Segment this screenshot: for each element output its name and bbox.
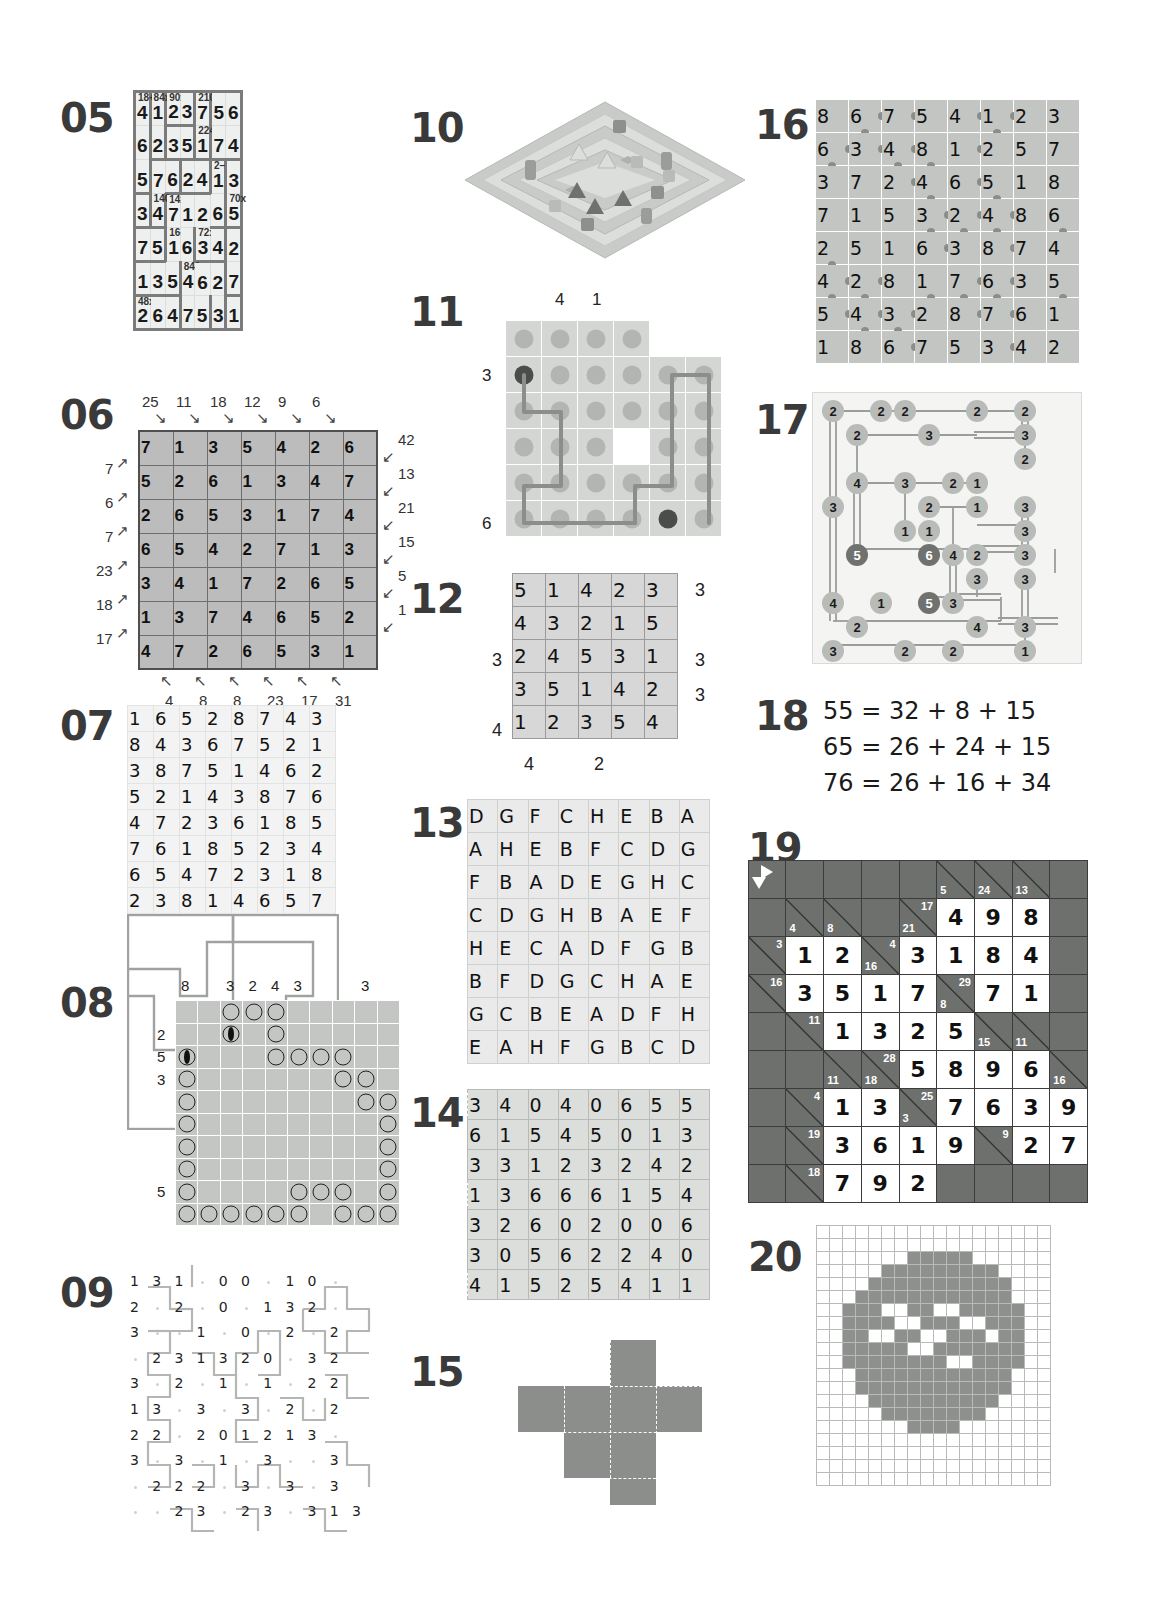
letter-row: EAHFGBCD: [468, 1031, 710, 1064]
nonogram-cell: [895, 1265, 908, 1278]
nonogram-cell: [856, 1434, 869, 1447]
tents-cell: [265, 1023, 287, 1046]
nonogram-cell: [1012, 1369, 1025, 1382]
tent-marker: [357, 1206, 374, 1223]
domino-cell: 5: [589, 1270, 619, 1300]
grid-dot: [223, 1486, 226, 1489]
kropki-row: 63481257: [816, 133, 1080, 166]
region-number: 3: [241, 1478, 250, 1494]
region-number: 3: [197, 1503, 206, 1519]
kakuro-answer-cell: 4: [937, 899, 975, 937]
puzzle-14-grid: 3404065561545013331232421366615432602006…: [467, 1089, 710, 1300]
path-node: [694, 365, 713, 384]
letter-cell: B: [679, 932, 709, 965]
tents-cell: [220, 1001, 242, 1024]
letter-cell: F: [498, 965, 528, 998]
region-number: 3: [130, 1375, 139, 1391]
calcudoku-cell: 5: [150, 228, 166, 262]
tent-marker: [380, 1138, 397, 1155]
nonogram-cell: [856, 1395, 869, 1408]
path-cell: [686, 393, 722, 429]
right-arrow: ↙: [382, 584, 395, 602]
nonogram-cell: [1038, 1395, 1051, 1408]
kropki-cell: 7: [981, 298, 1014, 331]
letter-cell: G: [619, 866, 649, 899]
domino-cell: 2: [498, 1210, 528, 1240]
calcudoku-cell: 4: [195, 160, 211, 194]
kropki-row: 18675342: [816, 331, 1080, 364]
nonogram-cell: [934, 1226, 947, 1239]
nonogram-cell: [843, 1447, 856, 1460]
region-number: 2: [174, 1375, 183, 1391]
nonogram-row: [817, 1473, 1051, 1486]
nonogram-cell: [882, 1382, 895, 1395]
nonogram-cell: [999, 1291, 1012, 1304]
kakuro-across-clue: 18: [808, 1166, 820, 1178]
tents-cell: [265, 1001, 287, 1024]
kakuro-down-clue: 13: [1016, 884, 1028, 896]
domino-cell: 4: [679, 1180, 709, 1210]
kakuro-block-cell: [1012, 1165, 1050, 1203]
sudoku-cell: 8: [154, 758, 180, 784]
kakuro-clue-cell: 19: [786, 1127, 824, 1165]
sudoku-cell: 2: [128, 888, 154, 914]
calcudoku-cell: 6: [180, 228, 195, 262]
nonogram-cell: [830, 1343, 843, 1356]
nonogram-cell: [817, 1460, 830, 1473]
nonogram-cell: [1025, 1330, 1038, 1343]
kakuro-row: 4133257639: [749, 1089, 1088, 1127]
skyscraper-cell: 2: [546, 706, 579, 739]
letter-cell: C: [619, 833, 649, 866]
region-number: 2: [152, 1350, 161, 1366]
domino-cell: 2: [558, 1150, 588, 1180]
region-number: 2: [152, 1427, 161, 1443]
nonogram-cell: [856, 1330, 869, 1343]
sudoku-cell: 2: [180, 810, 206, 836]
sudoku-cell: 5: [310, 810, 336, 836]
kakuro-answer-cell: 9: [974, 1051, 1012, 1089]
path-cell: [686, 357, 722, 393]
nonogram-cell: [908, 1356, 921, 1369]
cell-value: 4: [196, 169, 208, 191]
domino-cell: 3: [498, 1180, 528, 1210]
nonogram-cell: [895, 1460, 908, 1473]
letter-cell: E: [589, 866, 619, 899]
path-node: [550, 401, 569, 420]
region-number: 2: [174, 1478, 183, 1494]
domino-cell: 3: [468, 1210, 498, 1240]
sudoku-cell: 4: [310, 836, 336, 862]
kakuro-across-clue: 19: [808, 1128, 820, 1140]
tent-marker: [245, 1206, 262, 1223]
calcudoku-cell: 14x7: [166, 194, 181, 228]
domino-row: 41525411: [468, 1270, 710, 1300]
cell-value: 1: [137, 271, 149, 293]
path-cell: [614, 501, 650, 537]
puzzle-09-grid: 1310010220132310222313203232112213332222…: [125, 1265, 400, 1540]
net-fold-line: [564, 1386, 565, 1432]
nonogram-cell: [817, 1395, 830, 1408]
nonogram-cell: [869, 1382, 882, 1395]
nonogram-cell: [856, 1239, 869, 1252]
nonogram-cell: [817, 1239, 830, 1252]
nonogram-cell: [830, 1408, 843, 1421]
path-cell: [506, 465, 542, 501]
calcudoku-row: 7516+1672x342: [135, 228, 242, 262]
tent-marker: [335, 1206, 352, 1223]
region-number: 1: [197, 1324, 206, 1340]
letter-cell: E: [679, 965, 709, 998]
nonogram-cell: [895, 1317, 908, 1330]
bridge-node: 3: [918, 424, 940, 446]
nonogram-cell: [856, 1304, 869, 1317]
kakuro-across-clue: 28: [883, 1052, 895, 1064]
nonogram-cell: [843, 1252, 856, 1265]
nonogram-cell: [869, 1369, 882, 1382]
nonogram-cell: [895, 1330, 908, 1343]
nonogram-cell: [1038, 1239, 1051, 1252]
region-number: 2: [174, 1503, 183, 1519]
calcudoku-cell: 6: [135, 126, 151, 160]
kakuro-clue-cell: 11: [824, 1051, 862, 1089]
nonogram-cell: [947, 1369, 960, 1382]
nonogram-cell: [986, 1317, 999, 1330]
domino-cell: 4: [619, 1270, 649, 1300]
nonogram-cell: [921, 1473, 934, 1486]
